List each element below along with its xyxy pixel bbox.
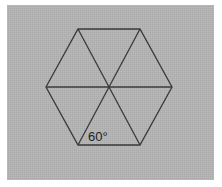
angle-label-60-degrees: 60° — [88, 129, 108, 144]
hexagon-diagonals-group — [46, 29, 172, 145]
hexagon-diagram: 60° — [0, 0, 222, 187]
figure-root: 60° — [0, 0, 222, 187]
annotation-group: 60° — [88, 129, 108, 144]
